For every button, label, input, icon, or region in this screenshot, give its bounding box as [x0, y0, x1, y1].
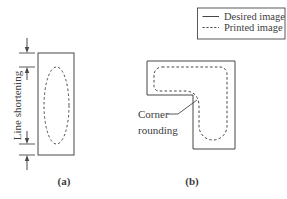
- corner-rounding-label-line2: rounding: [138, 124, 178, 136]
- arrow-up-icon: [25, 155, 29, 161]
- line-shortening-label: Line shortening: [11, 70, 23, 140]
- legend-label-printed: Printed image: [224, 22, 283, 33]
- printed-ellipse: [44, 67, 69, 144]
- legend-label-desired: Desired image: [224, 11, 285, 22]
- diagram-svg: Desired image Printed image: [0, 0, 287, 199]
- figure-canvas: Desired image Printed image: [0, 0, 287, 199]
- legend: Desired image Printed image: [198, 8, 286, 39]
- panel-b: Corner rounding (b): [138, 61, 235, 188]
- panel-a-caption: (a): [58, 175, 71, 188]
- panel-b-caption: (b): [185, 175, 199, 188]
- arrow-down-icon: [25, 47, 29, 53]
- arrow-up-icon: [25, 67, 29, 73]
- panel-a: Line shortening (a): [11, 38, 74, 188]
- corner-rounding-label-line1: Corner: [138, 108, 169, 120]
- arrow-down-icon: [25, 138, 29, 144]
